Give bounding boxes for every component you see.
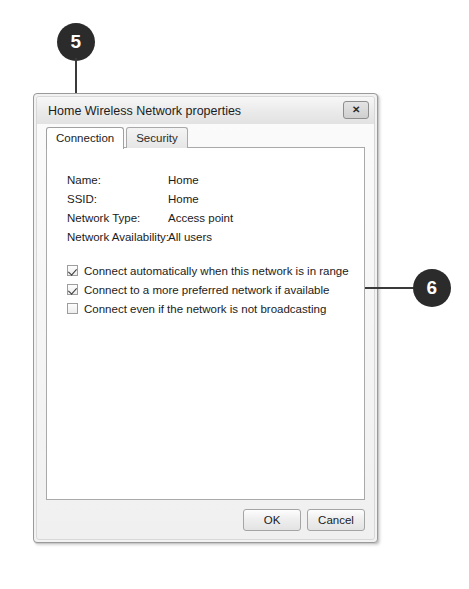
connection-options-group: Connect automatically when this network … [67, 261, 357, 318]
property-label: Name: [67, 174, 168, 186]
network-property-list: Name: Home SSID: Home Network Type: Acce… [67, 170, 357, 246]
network-properties-dialog: Home Wireless Network properties ✕ Conne… [33, 93, 378, 543]
dialog-title-bar: Home Wireless Network properties ✕ [37, 97, 374, 124]
dialog-button-bar: OK Cancel [243, 509, 365, 531]
checkbox-label: Connect to a more preferred network if a… [84, 284, 329, 296]
property-label: Network Availability: [67, 231, 168, 243]
property-label: Network Type: [67, 212, 168, 224]
connection-tab-panel: Name: Home SSID: Home Network Type: Acce… [46, 147, 365, 500]
property-row: Name: Home [67, 170, 357, 189]
dialog-title: Home Wireless Network properties [48, 104, 241, 118]
checkbox-icon[interactable] [67, 284, 78, 295]
checkbox-label: Connect automatically when this network … [84, 265, 349, 277]
property-value: Access point [168, 212, 233, 224]
checkbox-label: Connect even if the network is not broad… [84, 303, 326, 315]
checkbox-row-preferred-network[interactable]: Connect to a more preferred network if a… [67, 280, 357, 299]
property-row: Network Availability: All users [67, 227, 357, 246]
checkbox-icon[interactable] [67, 303, 78, 314]
property-value: All users [168, 231, 212, 243]
tab-strip: Connection Security [46, 127, 188, 148]
property-value: Home [168, 174, 199, 186]
tab-security[interactable]: Security [126, 127, 188, 148]
ok-button[interactable]: OK [243, 509, 301, 531]
close-icon[interactable]: ✕ [343, 101, 369, 119]
tab-connection[interactable]: Connection [46, 127, 124, 149]
property-value: Home [168, 193, 199, 205]
property-row: SSID: Home [67, 189, 357, 208]
callout-marker-6: 6 [413, 269, 451, 307]
callout-marker-5: 5 [57, 23, 95, 61]
property-row: Network Type: Access point [67, 208, 357, 227]
checkbox-row-connect-automatically[interactable]: Connect automatically when this network … [67, 261, 357, 280]
checkbox-row-not-broadcasting[interactable]: Connect even if the network is not broad… [67, 299, 357, 318]
checkbox-icon[interactable] [67, 265, 78, 276]
cancel-button[interactable]: Cancel [307, 509, 365, 531]
property-label: SSID: [67, 193, 168, 205]
